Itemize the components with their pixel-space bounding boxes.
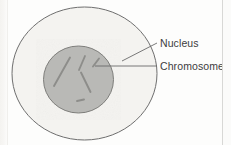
- diagram-canvas: [0, 0, 231, 145]
- label-chromosome: Chromosome: [160, 61, 224, 72]
- cell-diagram-figure: Nucleus Chromosome: [0, 0, 231, 145]
- label-nucleus: Nucleus: [160, 38, 199, 49]
- nucleus-shape: [44, 46, 114, 113]
- page-right-margin: [223, 0, 231, 145]
